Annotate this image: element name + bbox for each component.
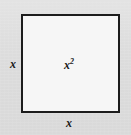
area-label-interior: x2 — [55, 58, 83, 71]
side-length-label-left: x — [6, 58, 20, 70]
side-length-label-bottom: x — [62, 117, 76, 129]
geometry-figure-canvas: x x2 x — [0, 0, 131, 135]
area-label-exponent: 2 — [70, 57, 74, 66]
